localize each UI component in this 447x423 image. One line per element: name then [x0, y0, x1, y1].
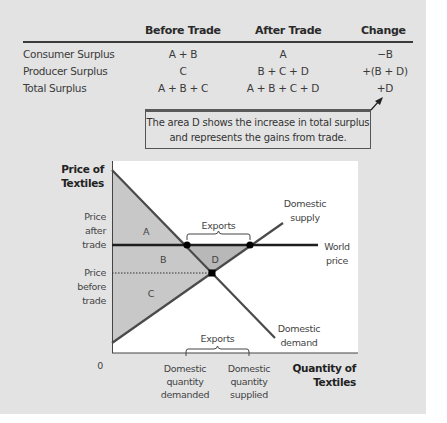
area-b-label: B — [160, 254, 166, 265]
world-price-label-2: price — [326, 255, 349, 266]
y-axis-title-line1: Price of — [61, 163, 105, 175]
price-after-label-2: after — [85, 225, 106, 236]
supply-label-2: supply — [290, 212, 320, 223]
price-before-label-3: trade — [82, 295, 106, 306]
demand-label-1: Domestic — [278, 323, 320, 334]
qs-point-icon — [246, 241, 253, 248]
callout-arrow-icon — [371, 97, 383, 110]
world-price-label-1: World — [324, 241, 350, 252]
price-before-label-1: Price — [84, 267, 106, 278]
qd-label-3: demanded — [161, 389, 210, 400]
area-a-label: A — [143, 226, 150, 237]
exports-label-top: Exports — [202, 220, 236, 231]
area-d-label: D — [211, 254, 218, 265]
demand-label-2: demand — [280, 337, 317, 348]
x-axis-title-line2: Textiles — [313, 376, 356, 388]
qd-label-2: quantity — [166, 376, 204, 387]
x-axis-title-line1: Quantity of — [292, 362, 356, 374]
price-after-label-3: trade — [82, 239, 106, 250]
exports-label-bottom: Exports — [201, 333, 235, 344]
y-axis-title-line2: Textiles — [61, 177, 104, 189]
qs-label-3: supplied — [230, 389, 268, 400]
trade-surplus-diagram: Exports Exports A B C D Price of Textile… — [0, 0, 447, 423]
price-after-label-1: Price — [84, 211, 106, 222]
qs-label-1: Domestic — [228, 363, 270, 374]
qs-label-2: quantity — [230, 376, 268, 387]
supply-label-1: Domestic — [284, 198, 326, 209]
qd-label-1: Domestic — [164, 363, 206, 374]
area-c-label: C — [148, 288, 155, 299]
equilibrium-point-icon — [209, 270, 216, 277]
qd-point-icon — [183, 241, 190, 248]
origin-label: 0 — [97, 360, 103, 371]
price-before-label-2: before — [77, 281, 106, 292]
